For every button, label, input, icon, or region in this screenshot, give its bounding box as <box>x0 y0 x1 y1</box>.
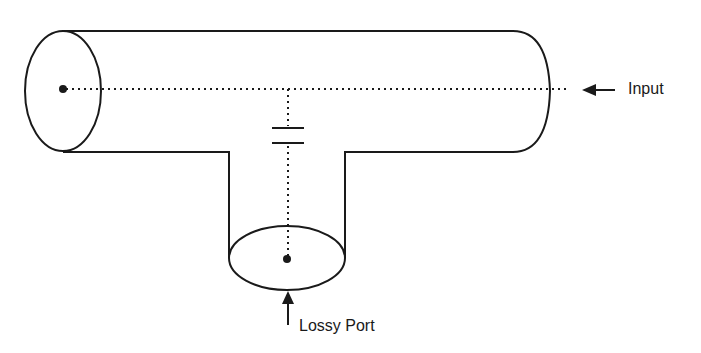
main-line-center-dot <box>59 85 67 93</box>
lossy-port-arrow-icon <box>282 291 294 325</box>
input-arrow-icon <box>582 84 615 96</box>
main-line-body <box>63 31 550 258</box>
lossy-port-label: Lossy Port <box>299 317 375 335</box>
lossy-port-center-dot <box>283 255 291 263</box>
tee-diagram <box>0 0 701 353</box>
input-label: Input <box>628 80 664 98</box>
